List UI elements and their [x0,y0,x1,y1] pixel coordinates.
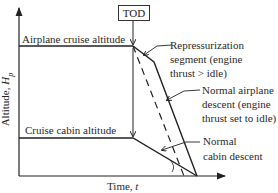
airplane-leader [184,90,200,91]
cabin-descent-label-1: Normal [203,135,237,147]
x-axis-label: Time, t [107,180,138,192]
cabin-leader-arrow [162,142,186,150]
cabin-altitude-line [19,138,197,176]
repress-leader-arrow [144,46,157,55]
repress-label-1: Repressurization [170,39,244,51]
airplane-descent-label-2: descent (engine [202,98,271,110]
airplane-descent-label-1: Normal airplane [202,84,274,96]
repress-label-2: segment (engine [170,53,242,65]
normal-airplane-descent-line [133,46,184,176]
y-axis-label: Altitude, Hp [0,65,15,135]
airplane-descent-label-3: thrust set to idle) [202,112,276,124]
cabin-descent-label-2: cabin descent [203,150,263,162]
repress-label-3: thrust > idle) [170,67,227,79]
cabin-cruise-label: Cruise cabin altitude [25,124,116,136]
airplane-cruise-label: Airplane cruise altitude [22,33,125,45]
tod-marker: TOD [118,5,150,21]
airplane-leader-arrow [167,91,184,100]
descent-profile-diagram [0,0,278,193]
